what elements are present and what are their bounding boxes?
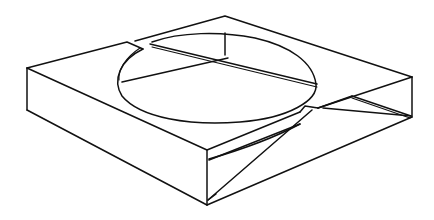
slab-drawing [0, 0, 434, 220]
slot-edge-upper [150, 44, 317, 84]
wedge-lower-edge [208, 194, 216, 200]
slot-notch-right [300, 106, 318, 112]
recess-rim [118, 33, 316, 123]
top-edge-left-back [27, 42, 143, 68]
wedge-upper-edge [209, 124, 300, 160]
slot-right-cross [318, 96, 352, 108]
bottom-left-edge [27, 110, 207, 205]
diagonal-slot [122, 44, 411, 118]
circular-recess [118, 33, 316, 123]
top-edge-right-back [135, 16, 412, 77]
diagram-canvas [0, 0, 434, 220]
top-edge-left-front [27, 68, 300, 150]
bottom-right-edge [207, 117, 412, 205]
slot-edge-lower [122, 58, 228, 82]
